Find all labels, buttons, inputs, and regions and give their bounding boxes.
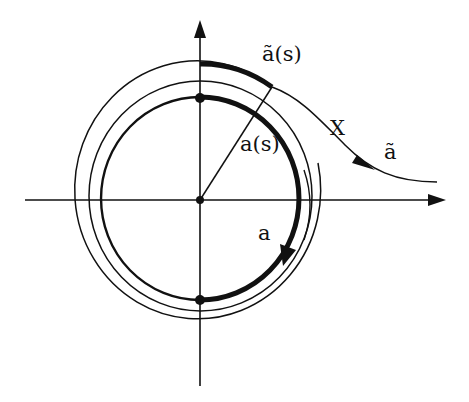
- label-lifted-arc: ã(s): [262, 44, 302, 65]
- vertical-axis-arrowhead: [194, 20, 206, 38]
- label-lifted-path: ã: [384, 142, 397, 163]
- label-radius-point: a(s): [240, 134, 280, 155]
- short-partial-arc: [304, 170, 310, 240]
- top-inner-point: [195, 93, 205, 103]
- loop-a-thick-arc: [200, 97, 299, 300]
- diagram-svg: [0, 0, 469, 402]
- inner-circle-left: [101, 97, 200, 300]
- lifted-arc-thick: [200, 64, 272, 87]
- origin-point: [196, 196, 204, 204]
- path-X-arrowhead: [352, 155, 375, 170]
- label-loop-a: a: [258, 223, 271, 244]
- horizontal-axis-arrowhead: [428, 194, 446, 206]
- diagram-canvas: ã(s) X ã a(s) a: [0, 0, 469, 402]
- loop-a-arrowhead: [280, 244, 296, 266]
- bottom-inner-point: [195, 295, 205, 305]
- axes: [25, 20, 446, 386]
- label-path-X: X: [330, 118, 345, 139]
